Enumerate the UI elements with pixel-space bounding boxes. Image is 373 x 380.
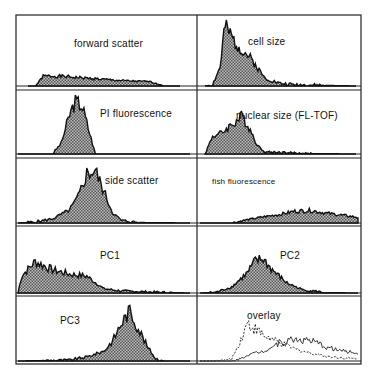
panel-label-nuclear-size: nuclear size (FL-TOF) bbox=[236, 110, 338, 121]
histogram-cell-size bbox=[197, 20, 361, 86]
histogram-grid-figure bbox=[0, 0, 373, 380]
histogram-fish-fluorescence bbox=[197, 208, 361, 223]
histogram-forward-scatter bbox=[16, 75, 197, 87]
panel-label-fish-fluorescence: fish fluorescence bbox=[212, 177, 275, 186]
histogram-pc1 bbox=[16, 260, 197, 293]
histogram-pi-fluorescence bbox=[16, 95, 197, 154]
panel-label-forward-scatter: forward scatter bbox=[74, 38, 143, 49]
histogram-overlay bbox=[197, 321, 361, 361]
panel-label-cell-size: cell size bbox=[248, 36, 285, 47]
panel-label-side-scatter: side scatter bbox=[105, 175, 159, 186]
panel-label-pc1: PC1 bbox=[100, 250, 120, 261]
panel-label-overlay: overlay bbox=[247, 310, 281, 321]
histogram-pc3 bbox=[16, 305, 197, 361]
panel-label-pi-fluorescence: PI fluorescence bbox=[100, 108, 172, 119]
grid-lines bbox=[16, 15, 361, 364]
histogram-pc2 bbox=[197, 255, 361, 293]
panel-label-pc2: PC2 bbox=[280, 250, 300, 261]
panel-label-pc3: PC3 bbox=[60, 315, 80, 326]
